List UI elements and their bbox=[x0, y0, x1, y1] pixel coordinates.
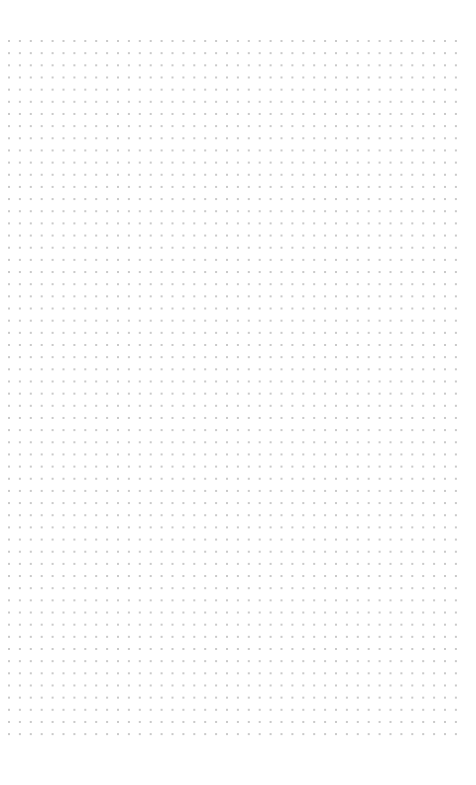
grid-dot bbox=[84, 344, 86, 346]
grid-dot bbox=[400, 162, 402, 164]
grid-dot bbox=[95, 76, 97, 78]
grid-dot bbox=[455, 697, 457, 699]
grid-dot bbox=[313, 344, 315, 346]
grid-dot bbox=[204, 162, 206, 164]
grid-dot bbox=[139, 672, 141, 674]
grid-dot bbox=[204, 89, 206, 91]
grid-dot bbox=[182, 551, 184, 553]
grid-dot bbox=[73, 733, 75, 735]
grid-dot bbox=[193, 198, 195, 200]
grid-dot bbox=[390, 575, 392, 577]
grid-dot bbox=[455, 721, 457, 723]
grid-dot bbox=[248, 466, 250, 468]
grid-dot bbox=[19, 332, 21, 334]
grid-dot bbox=[128, 551, 130, 553]
grid-dot bbox=[270, 733, 272, 735]
grid-dot bbox=[73, 441, 75, 443]
grid-dot bbox=[444, 648, 446, 650]
grid-dot bbox=[368, 526, 370, 528]
grid-dot bbox=[346, 502, 348, 504]
grid-dot bbox=[368, 453, 370, 455]
grid-dot bbox=[193, 101, 195, 103]
grid-dot bbox=[182, 502, 184, 504]
grid-dot bbox=[30, 514, 32, 516]
grid-dot bbox=[73, 344, 75, 346]
grid-dot bbox=[390, 210, 392, 212]
grid-dot bbox=[379, 453, 381, 455]
grid-dot bbox=[335, 672, 337, 674]
grid-dot bbox=[193, 271, 195, 273]
grid-dot bbox=[259, 453, 261, 455]
grid-dot bbox=[193, 320, 195, 322]
grid-dot bbox=[19, 283, 21, 285]
grid-dot bbox=[226, 514, 228, 516]
grid-dot bbox=[248, 660, 250, 662]
grid-dot bbox=[139, 441, 141, 443]
grid-dot bbox=[444, 612, 446, 614]
grid-dot bbox=[444, 283, 446, 285]
grid-dot bbox=[379, 575, 381, 577]
grid-dot bbox=[41, 587, 43, 589]
grid-dot bbox=[150, 697, 152, 699]
grid-dot bbox=[161, 235, 163, 237]
grid-dot bbox=[150, 186, 152, 188]
grid-dot bbox=[226, 393, 228, 395]
grid-dot bbox=[63, 684, 65, 686]
grid-dot bbox=[379, 502, 381, 504]
grid-dot bbox=[193, 186, 195, 188]
grid-dot bbox=[237, 405, 239, 407]
grid-dot bbox=[30, 575, 32, 577]
grid-dot bbox=[302, 551, 304, 553]
grid-dot bbox=[324, 575, 326, 577]
grid-dot bbox=[379, 660, 381, 662]
grid-dot bbox=[291, 89, 293, 91]
grid-dot bbox=[226, 526, 228, 528]
grid-dot bbox=[128, 466, 130, 468]
grid-dot bbox=[139, 624, 141, 626]
grid-dot bbox=[324, 210, 326, 212]
grid-dot bbox=[433, 466, 435, 468]
grid-dot bbox=[150, 64, 152, 66]
grid-dot bbox=[313, 210, 315, 212]
grid-dot bbox=[313, 612, 315, 614]
grid-dot bbox=[346, 222, 348, 224]
grid-dot bbox=[73, 526, 75, 528]
grid-dot bbox=[150, 684, 152, 686]
grid-dot bbox=[422, 40, 424, 42]
grid-dot bbox=[30, 733, 32, 735]
grid-dot bbox=[215, 733, 217, 735]
grid-dot bbox=[324, 247, 326, 249]
grid-dot bbox=[455, 101, 457, 103]
grid-dot bbox=[41, 52, 43, 54]
grid-dot bbox=[139, 149, 141, 151]
grid-dot bbox=[128, 660, 130, 662]
grid-dot bbox=[400, 113, 402, 115]
grid-dot bbox=[19, 368, 21, 370]
grid-dot bbox=[335, 441, 337, 443]
grid-dot bbox=[270, 563, 272, 565]
grid-dot bbox=[324, 502, 326, 504]
grid-dot bbox=[193, 344, 195, 346]
grid-dot bbox=[117, 52, 119, 54]
grid-dot bbox=[248, 672, 250, 674]
grid-dot bbox=[368, 76, 370, 78]
grid-dot bbox=[41, 660, 43, 662]
grid-dot bbox=[182, 563, 184, 565]
grid-dot bbox=[8, 222, 10, 224]
grid-dot bbox=[259, 76, 261, 78]
grid-dot bbox=[95, 52, 97, 54]
grid-dot bbox=[433, 709, 435, 711]
grid-dot bbox=[95, 125, 97, 127]
grid-dot bbox=[204, 502, 206, 504]
grid-dot bbox=[73, 453, 75, 455]
grid-dot bbox=[117, 697, 119, 699]
grid-dot bbox=[411, 502, 413, 504]
grid-dot bbox=[379, 40, 381, 42]
grid-dot bbox=[411, 429, 413, 431]
grid-dot bbox=[259, 551, 261, 553]
grid-dot bbox=[73, 490, 75, 492]
grid-dot bbox=[433, 478, 435, 480]
grid-dot bbox=[226, 89, 228, 91]
grid-dot bbox=[19, 417, 21, 419]
grid-dot bbox=[400, 502, 402, 504]
